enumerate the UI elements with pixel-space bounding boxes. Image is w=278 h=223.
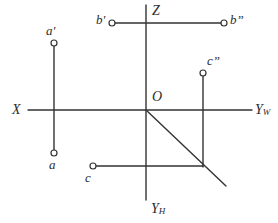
- diagram-canvas: [0, 0, 278, 223]
- point-marker-c-double-prime: [200, 70, 206, 76]
- point-marker-b-double-prime: [221, 20, 227, 26]
- axis-label-yw-subscript: W: [263, 107, 271, 117]
- axis-label-x: X: [12, 103, 21, 117]
- axis-label-z: Z: [152, 4, 160, 18]
- point-label-a-prime: a': [46, 24, 55, 37]
- point-label-a: a: [49, 158, 56, 171]
- point-label-c-double-prime: c”: [207, 54, 220, 67]
- bisector-diagonal-line: [146, 110, 226, 186]
- projection-diagram: Z X YW YH O a' a b' b” c c”: [0, 0, 278, 223]
- axis-label-yh-subscript: H: [159, 206, 166, 216]
- point-marker-c: [90, 163, 96, 169]
- point-marker-a-prime: [51, 40, 57, 46]
- point-label-b-double-prime: b”: [230, 13, 244, 26]
- axis-label-yw: YW: [255, 103, 270, 117]
- origin-label: O: [152, 90, 162, 104]
- point-marker-b-prime: [109, 20, 115, 26]
- point-label-c: c: [85, 171, 91, 184]
- point-marker-a: [51, 150, 57, 156]
- axis-label-yh: YH: [151, 202, 165, 216]
- point-label-b-prime: b': [96, 13, 105, 26]
- axis-label-yh-letter: Y: [151, 201, 159, 216]
- axis-label-yw-letter: Y: [255, 102, 263, 117]
